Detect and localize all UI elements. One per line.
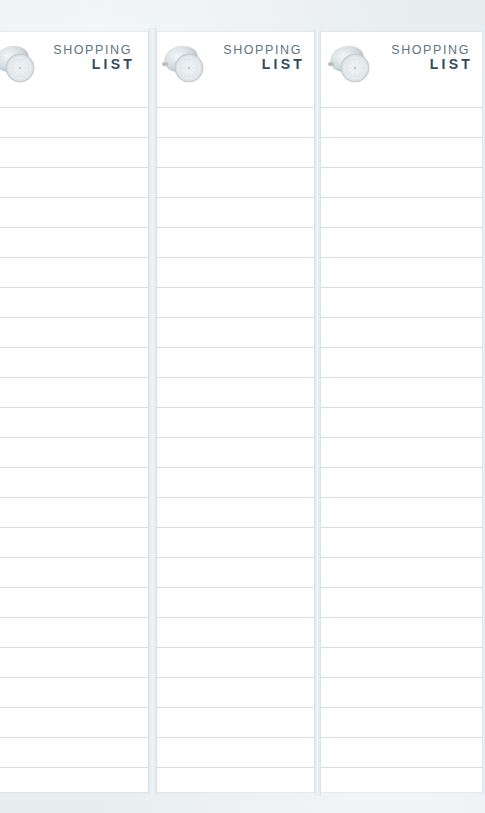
ruled-line[interactable] [157, 287, 314, 317]
ruled-line[interactable] [321, 377, 482, 407]
ruled-line[interactable] [0, 587, 148, 617]
ruled-line[interactable] [157, 617, 314, 647]
ruled-line[interactable] [0, 647, 148, 677]
sheet-title: SHOPPING LIST [391, 44, 470, 71]
shopping-list-sheet-2: SHOPPING LIST [157, 32, 314, 792]
ruled-line[interactable] [321, 137, 482, 167]
ruled-line[interactable] [321, 617, 482, 647]
ruled-line[interactable] [321, 677, 482, 707]
ruled-line[interactable] [321, 767, 482, 791]
ruled-line[interactable] [157, 317, 314, 347]
ruled-line[interactable] [157, 677, 314, 707]
lemon-icon [327, 40, 373, 84]
title-shopping: SHOPPING [53, 44, 132, 57]
ruled-line[interactable] [157, 437, 314, 467]
ruled-line[interactable] [0, 617, 148, 647]
ruled-line[interactable] [321, 467, 482, 497]
ruled-lines [157, 107, 314, 791]
ruled-line[interactable] [157, 557, 314, 587]
ruled-line[interactable] [0, 557, 148, 587]
ruled-line[interactable] [321, 167, 482, 197]
sheet-gap [148, 28, 157, 796]
ruled-line[interactable] [321, 227, 482, 257]
title-shopping: SHOPPING [223, 44, 302, 57]
ruled-line[interactable] [321, 287, 482, 317]
ruled-line[interactable] [157, 167, 314, 197]
ruled-line[interactable] [0, 767, 148, 791]
ruled-line[interactable] [321, 317, 482, 347]
sheet-header: SHOPPING LIST [157, 32, 314, 108]
ruled-line[interactable] [157, 107, 314, 137]
ruled-line[interactable] [157, 527, 314, 557]
ruled-line[interactable] [321, 437, 482, 467]
ruled-line[interactable] [0, 437, 148, 467]
ruled-line[interactable] [157, 257, 314, 287]
ruled-line[interactable] [157, 767, 314, 791]
title-list: LIST [391, 57, 473, 71]
ruled-line[interactable] [0, 467, 148, 497]
ruled-line[interactable] [0, 107, 148, 137]
ruled-line[interactable] [0, 137, 148, 167]
ruled-line[interactable] [321, 407, 482, 437]
ruled-line[interactable] [157, 587, 314, 617]
ruled-line[interactable] [157, 197, 314, 227]
sheet-header: SHOPPING LIST [0, 32, 148, 108]
ruled-line[interactable] [0, 497, 148, 527]
ruled-line[interactable] [321, 347, 482, 377]
ruled-line[interactable] [321, 107, 482, 137]
sheet-title: SHOPPING LIST [53, 44, 132, 71]
ruled-line[interactable] [321, 707, 482, 737]
sheet-title: SHOPPING LIST [223, 44, 302, 71]
ruled-line[interactable] [157, 347, 314, 377]
title-list: LIST [53, 57, 135, 71]
ruled-line[interactable] [157, 497, 314, 527]
title-shopping: SHOPPING [391, 44, 470, 57]
ruled-line[interactable] [0, 377, 148, 407]
ruled-line[interactable] [157, 707, 314, 737]
ruled-line[interactable] [0, 317, 148, 347]
ruled-line[interactable] [321, 197, 482, 227]
ruled-line[interactable] [0, 737, 148, 767]
sheet-header: SHOPPING LIST [321, 32, 482, 108]
lemon-icon [161, 40, 207, 84]
ruled-line[interactable] [0, 167, 148, 197]
ruled-line[interactable] [321, 647, 482, 677]
sheet-gap [314, 28, 321, 796]
ruled-line[interactable] [0, 677, 148, 707]
ruled-line[interactable] [0, 197, 148, 227]
ruled-line[interactable] [157, 377, 314, 407]
ruled-line[interactable] [321, 257, 482, 287]
ruled-line[interactable] [157, 647, 314, 677]
ruled-line[interactable] [0, 527, 148, 557]
ruled-lines [321, 107, 482, 791]
ruled-line[interactable] [0, 407, 148, 437]
ruled-line[interactable] [321, 557, 482, 587]
ruled-line[interactable] [321, 587, 482, 617]
ruled-line[interactable] [321, 527, 482, 557]
ruled-line[interactable] [157, 467, 314, 497]
shopping-list-sheet-3: SHOPPING LIST [321, 32, 482, 792]
ruled-line[interactable] [157, 137, 314, 167]
ruled-line[interactable] [0, 707, 148, 737]
ruled-line[interactable] [157, 737, 314, 767]
title-list: LIST [223, 57, 305, 71]
ruled-line[interactable] [157, 227, 314, 257]
ruled-line[interactable] [321, 737, 482, 767]
ruled-line[interactable] [0, 227, 148, 257]
ruled-line[interactable] [0, 347, 148, 377]
ruled-line[interactable] [321, 497, 482, 527]
ruled-line[interactable] [0, 257, 148, 287]
shopping-list-sheet-1: SHOPPING LIST [0, 32, 148, 792]
ruled-line[interactable] [157, 407, 314, 437]
lemon-icon [0, 40, 38, 84]
ruled-line[interactable] [0, 287, 148, 317]
ruled-lines [0, 107, 148, 791]
